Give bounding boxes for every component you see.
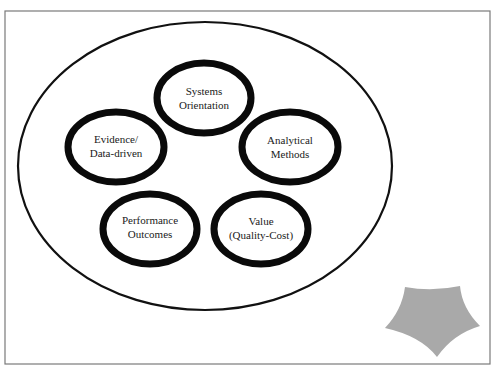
node-systems-orientation: Systems Orientation xyxy=(157,63,251,133)
node-label-line1: Value xyxy=(248,215,273,227)
node-analytical-methods: Analytical Methods xyxy=(242,112,338,182)
node-label-line1: Evidence/ xyxy=(94,133,139,145)
node-label-line1: Performance xyxy=(122,214,178,226)
node-evidence-data-driven: Evidence/ Data-driven xyxy=(68,112,164,182)
diagram-canvas: Systems Orientation Evidence/ Data-drive… xyxy=(0,0,496,371)
node-label-line2: Methods xyxy=(271,148,310,160)
node-performance-outcomes: Performance Outcomes xyxy=(103,194,197,264)
node-label-line2: Data-driven xyxy=(90,147,143,159)
node-value-quality-cost: Value (Quality-Cost) xyxy=(214,194,308,264)
node-label-line1: Analytical xyxy=(267,134,313,146)
node-label-line2: (Quality-Cost) xyxy=(229,229,293,242)
node-label-line2: Orientation xyxy=(179,99,230,111)
node-label-line2: Outcomes xyxy=(128,228,173,240)
node-label-line1: Systems xyxy=(186,85,223,97)
